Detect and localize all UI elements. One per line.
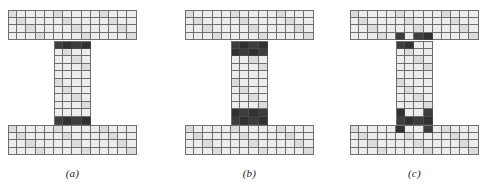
mesh-cell — [396, 94, 405, 102]
mesh-cell — [249, 56, 258, 64]
mesh-cell-highlighted — [72, 41, 81, 49]
mesh-cell — [109, 10, 118, 18]
mesh-cell — [469, 125, 478, 133]
mesh-cell — [368, 133, 377, 141]
mesh-cell — [82, 33, 91, 41]
mesh-cell-highlighted — [405, 117, 414, 125]
top-flange-mesh — [350, 10, 479, 40]
mesh-cell — [91, 10, 100, 18]
mesh-cell — [405, 102, 414, 110]
mesh-cell — [304, 148, 313, 156]
mesh-cell — [268, 133, 277, 141]
mesh-cell — [213, 33, 222, 41]
mesh-cell — [249, 94, 258, 102]
mesh-cell — [259, 125, 268, 133]
mesh-cell — [54, 10, 63, 18]
mesh-cell — [368, 125, 377, 133]
mesh-cell — [82, 64, 91, 72]
mesh-cell — [378, 10, 387, 18]
mesh-cell — [109, 148, 118, 156]
mesh-cell — [72, 148, 81, 156]
mesh-cell-highlighted — [63, 117, 72, 125]
mesh-cell — [277, 140, 286, 148]
mesh-cell — [100, 133, 109, 141]
mesh-cell — [424, 87, 433, 95]
mesh-cell — [469, 33, 478, 41]
mesh-cell — [414, 133, 423, 141]
mesh-cell-highlighted — [405, 41, 414, 49]
mesh-cell — [26, 10, 35, 18]
figure-panel-b: (b) — [185, 0, 314, 186]
mesh-cell — [185, 148, 194, 156]
mesh-cell — [82, 148, 91, 156]
mesh-cell — [460, 18, 469, 26]
mesh-cell — [249, 33, 258, 41]
mesh-cell-highlighted — [249, 41, 258, 49]
mesh-cell — [240, 64, 249, 72]
mesh-cell — [45, 25, 54, 33]
mesh-cell — [100, 18, 109, 26]
mesh-cell-highlighted — [249, 117, 258, 125]
mesh-cell — [54, 148, 63, 156]
mesh-cell — [118, 148, 127, 156]
mesh-cell — [72, 10, 81, 18]
mesh-cell — [17, 10, 26, 18]
mesh-cell — [63, 148, 72, 156]
mesh-cell — [259, 148, 268, 156]
mesh-cell — [424, 18, 433, 26]
mesh-cell — [8, 25, 17, 33]
mesh-cell — [100, 148, 109, 156]
mesh-cell — [240, 56, 249, 64]
mesh-cell — [286, 10, 295, 18]
mesh-cell — [63, 102, 72, 110]
mesh-cell — [8, 18, 17, 26]
mesh-cell — [203, 18, 212, 26]
mesh-cell — [109, 33, 118, 41]
mesh-cell — [222, 148, 231, 156]
mesh-cell-highlighted — [259, 49, 268, 57]
mesh-cell — [222, 18, 231, 26]
mesh-cell — [63, 10, 72, 18]
mesh-cell — [240, 10, 249, 18]
mesh-cell — [127, 18, 136, 26]
mesh-cell — [100, 140, 109, 148]
mesh-cell — [222, 10, 231, 18]
mesh-cell — [442, 148, 451, 156]
mesh-cell — [63, 87, 72, 95]
mesh-cell-highlighted — [249, 109, 258, 117]
mesh-cell — [127, 140, 136, 148]
mesh-cell — [36, 18, 45, 26]
top-flange-mesh — [8, 10, 137, 40]
mesh-cell-highlighted — [63, 41, 72, 49]
mesh-cell — [249, 125, 258, 133]
mesh-cell — [8, 10, 17, 18]
mesh-cell — [203, 133, 212, 141]
mesh-cell-highlighted — [424, 117, 433, 125]
mesh-cell — [36, 148, 45, 156]
mesh-cell — [295, 125, 304, 133]
mesh-cell — [17, 140, 26, 148]
mesh-cell — [259, 133, 268, 141]
mesh-cell — [231, 140, 240, 148]
mesh-cell — [17, 18, 26, 26]
mesh-cell-highlighted — [240, 41, 249, 49]
mesh-cell — [359, 148, 368, 156]
mesh-cell — [405, 25, 414, 33]
mesh-cell — [424, 148, 433, 156]
mesh-cell — [405, 94, 414, 102]
mesh-cell — [26, 148, 35, 156]
mesh-cell — [396, 133, 405, 141]
mesh-cell — [442, 140, 451, 148]
mesh-cell — [350, 125, 359, 133]
mesh-cell — [72, 125, 81, 133]
mesh-cell — [277, 25, 286, 33]
mesh-cell — [414, 64, 423, 72]
mesh-cell — [451, 140, 460, 148]
mesh-cell — [240, 79, 249, 87]
mesh-cell-highlighted — [82, 41, 91, 49]
mesh-cell — [63, 71, 72, 79]
mesh-cell — [387, 33, 396, 41]
mesh-cell — [54, 79, 63, 87]
mesh-cell — [405, 71, 414, 79]
mesh-cell-highlighted — [424, 33, 433, 41]
